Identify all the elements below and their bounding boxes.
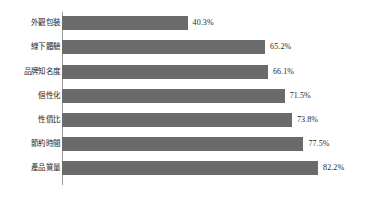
bar bbox=[62, 161, 318, 175]
category-label: 外觀包裝 bbox=[2, 19, 60, 27]
category-label: 線下體驗 bbox=[2, 44, 60, 52]
bar-row: 73.8% bbox=[62, 113, 366, 127]
category-label: 品牌知名度 bbox=[2, 68, 60, 76]
bar-value-label: 40.3% bbox=[193, 19, 214, 27]
bar-row: 77.5% bbox=[62, 137, 366, 151]
bar-row: 66.1% bbox=[62, 65, 366, 79]
bar bbox=[62, 137, 303, 151]
bar-row: 82.2% bbox=[62, 161, 366, 175]
bar bbox=[62, 40, 265, 54]
bar-value-label: 66.1% bbox=[273, 68, 294, 76]
bar-row: 65.2% bbox=[62, 40, 366, 54]
category-label: 節約時間 bbox=[2, 140, 60, 148]
bar-row: 71.5% bbox=[62, 89, 366, 103]
category-label: 性價比 bbox=[2, 116, 60, 124]
bar bbox=[62, 16, 188, 30]
category-label: 個性化 bbox=[2, 92, 60, 100]
bar bbox=[62, 65, 268, 79]
bar-value-label: 65.2% bbox=[270, 43, 291, 51]
bar-value-label: 77.5% bbox=[308, 140, 329, 148]
category-label: 產品質量 bbox=[2, 165, 60, 173]
bar-value-label: 71.5% bbox=[290, 92, 311, 100]
bar-value-label: 73.8% bbox=[297, 116, 318, 124]
bar bbox=[62, 113, 292, 127]
bar bbox=[62, 89, 285, 103]
bar-value-label: 82.2% bbox=[323, 164, 344, 172]
bar-chart: 外觀包裝線下體驗品牌知名度個性化性價比節約時間產品質量 40.3%65.2%66… bbox=[0, 0, 366, 198]
bar-row: 40.3% bbox=[62, 16, 366, 30]
